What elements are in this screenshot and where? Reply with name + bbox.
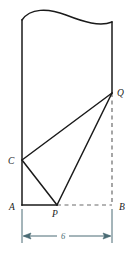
label-b: B: [119, 202, 125, 212]
triangle-cpq: [22, 93, 112, 205]
geometry-figure: A B C P Q 6: [0, 0, 132, 254]
segment-p-q: [57, 93, 112, 205]
dimension-arrowhead-right: [103, 233, 111, 239]
outline-solid: [22, 10, 112, 205]
segment-c-p: [22, 160, 57, 205]
vertex-labels: A B C P Q: [8, 88, 125, 219]
label-a: A: [8, 202, 15, 212]
figure-canvas: A B C P Q 6: [0, 0, 132, 254]
label-q: Q: [117, 88, 124, 98]
wavy-break-line: [22, 10, 112, 24]
dimension-arrowhead-left: [23, 233, 31, 239]
segment-c-q: [22, 93, 112, 160]
label-p: P: [51, 209, 58, 219]
label-c: C: [8, 156, 15, 166]
dimension-value-label: 6: [61, 231, 66, 241]
dimension-annotation-ab: 6: [22, 209, 112, 243]
